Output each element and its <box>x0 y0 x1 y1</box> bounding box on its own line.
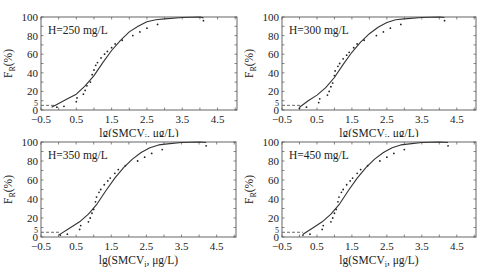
x-axis-label: lg(SMCVi, μg/L) <box>99 254 178 269</box>
data-point <box>103 184 105 186</box>
chart-panel-h350: 0520406080100−0.50.51.52.53.54.5lg(SMCVi… <box>0 137 243 277</box>
data-point <box>80 225 82 227</box>
x-tick-label: −0.5 <box>31 240 51 252</box>
data-point <box>88 221 90 223</box>
y-tick-label: 5 <box>34 226 38 235</box>
data-point <box>309 233 311 235</box>
data-point <box>349 180 351 182</box>
x-tick-label: 1.5 <box>345 113 359 125</box>
data-point <box>203 20 205 22</box>
chart-panel-h250: 0520406080100−0.50.51.52.53.54.5lg(SMCVi… <box>0 0 243 137</box>
data-point <box>106 51 108 53</box>
x-tick-label: −0.5 <box>272 240 292 252</box>
x-tick-label: 3.5 <box>415 113 429 125</box>
data-point <box>100 189 102 191</box>
x-tick-label: −0.5 <box>272 113 292 125</box>
x-tick-label: 4.5 <box>450 240 464 252</box>
data-point <box>75 101 77 103</box>
chart-svg: 0520406080100−0.50.51.52.53.54.5lg(SMCVi… <box>243 0 487 137</box>
chart-svg: 0520406080100−0.50.51.52.53.54.5lg(SMCVi… <box>0 0 243 137</box>
data-point <box>447 145 449 147</box>
data-point <box>117 169 119 171</box>
data-point <box>327 94 329 96</box>
x-axis-label: lg(SMCVi, μg/L) <box>339 127 418 137</box>
x-tick-label: 3.5 <box>175 113 189 125</box>
data-point <box>299 107 301 109</box>
data-point <box>337 65 339 67</box>
x-tick-label: 0.5 <box>310 240 324 252</box>
data-point <box>403 149 405 151</box>
data-point <box>151 153 153 155</box>
data-point <box>330 221 332 223</box>
y-tick-label: 60 <box>27 174 39 186</box>
y-tick-label: 80 <box>268 155 280 167</box>
data-point <box>132 35 134 37</box>
data-point <box>89 217 91 219</box>
x-tick-label: 2.5 <box>380 113 394 125</box>
y-tick-label: 5 <box>275 226 279 235</box>
data-point <box>318 102 320 104</box>
data-point <box>379 160 381 162</box>
data-point <box>444 20 446 22</box>
data-point <box>144 156 146 158</box>
x-tick-label: 4.5 <box>450 113 464 125</box>
y-tick-label: 20 <box>27 212 39 224</box>
y-tick-label: 40 <box>27 67 39 79</box>
y-tick-label: 40 <box>27 193 39 205</box>
x-tick-label: 4.5 <box>210 240 224 252</box>
data-point <box>322 225 324 227</box>
y-tick-label: 40 <box>268 193 280 205</box>
x-tick-label: 1.5 <box>105 113 119 125</box>
y-tick-label: 100 <box>22 11 39 23</box>
data-point <box>382 31 384 33</box>
data-point <box>306 106 308 108</box>
panel-annotation: H=450 mg/L <box>289 149 349 162</box>
data-point <box>360 169 362 171</box>
data-point <box>93 69 95 71</box>
y-tick-label: 40 <box>268 67 280 79</box>
data-point <box>91 74 93 76</box>
y-tick-label: 100 <box>22 137 39 148</box>
data-point <box>346 54 348 56</box>
data-point <box>321 229 323 231</box>
y-tick-label: 20 <box>268 212 280 224</box>
data-point <box>96 196 98 198</box>
data-point <box>346 184 348 186</box>
x-axis-label: lg(SMCVi, μg/L) <box>339 254 418 269</box>
data-point <box>82 93 84 95</box>
y-tick-label: 80 <box>27 155 39 167</box>
data-point <box>341 191 343 193</box>
data-point <box>375 35 377 37</box>
data-point <box>334 70 336 72</box>
data-point <box>337 201 339 203</box>
x-tick-label: 0.5 <box>69 240 83 252</box>
panel-annotation: H=350 mg/L <box>48 149 108 162</box>
data-point <box>56 106 58 108</box>
panel-annotation: H=300 mg/L <box>289 24 349 37</box>
data-point <box>393 153 395 155</box>
data-point <box>114 172 116 174</box>
data-point <box>109 177 111 179</box>
data-point <box>330 86 332 88</box>
x-tick-label: 4.5 <box>211 113 225 125</box>
data-point <box>100 57 102 59</box>
data-point <box>90 81 92 83</box>
y-axis-label: FR(%) <box>2 175 17 204</box>
data-point <box>338 196 340 198</box>
x-tick-label: 1.5 <box>104 240 118 252</box>
data-point <box>157 24 159 26</box>
data-point <box>332 82 334 84</box>
x-tick-label: 0.5 <box>310 113 324 125</box>
chart-svg: 0520406080100−0.50.51.52.53.54.5lg(SMCVi… <box>243 137 487 277</box>
y-tick-label: 80 <box>268 30 280 42</box>
y-tick-label: 20 <box>268 85 280 97</box>
data-point <box>352 177 354 179</box>
data-point <box>139 31 141 33</box>
x-tick-label: 3.5 <box>415 240 429 252</box>
data-point <box>97 62 99 64</box>
data-point <box>389 27 391 29</box>
y-tick-label: 100 <box>263 137 280 148</box>
data-point <box>334 212 336 214</box>
data-point <box>111 47 113 49</box>
y-axis-label: FR(%) <box>2 49 17 78</box>
